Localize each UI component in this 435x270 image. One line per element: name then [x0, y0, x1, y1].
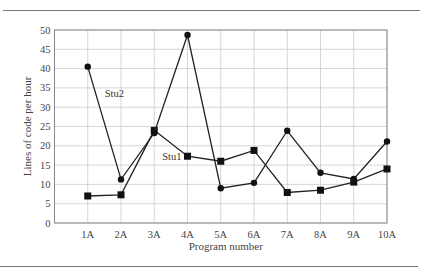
y-tick-label: 15 [40, 160, 51, 171]
y-tick-label: 0 [45, 218, 50, 229]
square-marker [217, 158, 224, 165]
y-tick-label: 35 [40, 82, 51, 93]
circle-marker [284, 128, 290, 134]
x-tick-label: 8A [314, 229, 327, 240]
x-tick-label: 10A [378, 229, 397, 240]
square-marker [184, 153, 191, 160]
series-label-stu2: Stu2 [105, 88, 124, 99]
x-axis-title: Program number [189, 240, 264, 252]
square-marker [251, 147, 258, 154]
y-tick-label: 5 [45, 198, 50, 209]
x-tick-label: 9A [347, 229, 360, 240]
square-marker [317, 187, 324, 194]
y-tick-label: 10 [40, 179, 51, 190]
y-axis-ticks: 05101520253035404550 [40, 25, 51, 229]
circle-marker [351, 176, 357, 182]
square-marker [118, 191, 125, 198]
square-marker [284, 189, 291, 196]
circle-marker [251, 180, 257, 186]
circle-marker [184, 32, 190, 38]
circle-marker [384, 138, 390, 144]
circle-marker [218, 185, 224, 191]
x-tick-label: 2A [115, 229, 128, 240]
y-tick-label: 50 [40, 25, 51, 36]
square-marker [84, 192, 91, 199]
circle-marker [317, 170, 323, 176]
data-series: Stu1Stu2 [84, 32, 390, 200]
x-axis-ticks: 1A2A3A4A5A6A7A8A9A10A [81, 229, 396, 240]
x-tick-label: 1A [81, 229, 94, 240]
grid-lines [55, 30, 388, 223]
circle-marker [151, 130, 157, 136]
circle-marker [118, 176, 124, 182]
x-tick-label: 5A [214, 229, 227, 240]
x-tick-label: 3A [148, 229, 161, 240]
y-tick-label: 45 [40, 44, 51, 55]
x-tick-label: 7A [281, 229, 294, 240]
square-marker [384, 165, 391, 172]
x-tick-label: 6A [248, 229, 261, 240]
y-tick-label: 30 [40, 102, 51, 113]
y-tick-label: 20 [40, 140, 51, 151]
series-label-stu1: Stu1 [162, 151, 181, 162]
y-axis-title: Lines of code per hour [21, 76, 33, 176]
y-tick-label: 40 [40, 63, 51, 74]
circle-marker [85, 63, 91, 69]
x-tick-label: 4A [181, 229, 194, 240]
series-stu2: Stu2 [85, 32, 391, 192]
line-chart: 05101520253035404550 1A2A3A4A5A6A7A8A9A1… [0, 0, 435, 270]
series-stu1: Stu1 [84, 127, 390, 200]
y-tick-label: 25 [40, 121, 51, 132]
